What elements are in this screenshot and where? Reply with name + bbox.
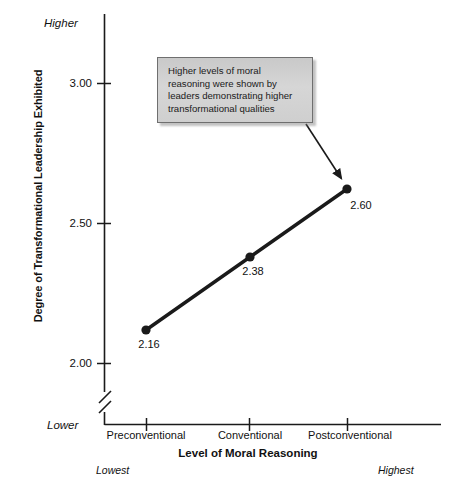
- axis-break-slash-lower: [99, 401, 111, 413]
- y-tick-label-3.00: 3.00: [46, 77, 92, 89]
- x-axis-high-label: Highest: [378, 464, 414, 476]
- annotation-callout-text: Higher levels of moral reasoning were sh…: [168, 65, 304, 115]
- data-label-postconventional: 2.60: [350, 199, 371, 211]
- data-point-preconventional: [141, 325, 150, 334]
- data-label-preconventional: 2.16: [138, 338, 159, 350]
- y-tick-label-2.50: 2.50: [46, 217, 92, 229]
- x-tick-label-conventional: Conventional: [218, 429, 282, 441]
- callout-arrow: [306, 124, 341, 178]
- y-tick-label-2.00: 2.00: [46, 357, 92, 369]
- y-axis-title: Degree of Transformational Leadership Ex…: [32, 36, 44, 356]
- data-point-conventional: [245, 252, 254, 261]
- x-tick-label-postconventional: Postconventional: [308, 429, 392, 441]
- data-label-conventional: 2.38: [242, 265, 263, 277]
- data-point-postconventional: [342, 184, 351, 193]
- x-axis-low-label: Lowest: [96, 464, 129, 476]
- chart-container: Degree of Transformational Leadership Ex…: [0, 0, 450, 490]
- annotation-callout: Higher levels of moral reasoning were sh…: [157, 57, 313, 123]
- y-axis-low-label: Lower: [47, 419, 78, 431]
- y-axis-high-label: Higher: [44, 17, 78, 29]
- axis-break-slash-upper: [99, 391, 111, 403]
- x-tick-label-preconventional: Preconventional: [107, 429, 186, 441]
- x-axis-title: Level of Moral Reasoning: [0, 447, 450, 459]
